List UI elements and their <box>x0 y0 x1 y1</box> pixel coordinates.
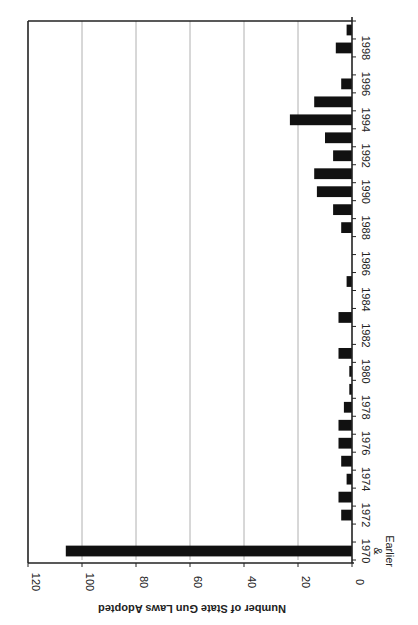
category-tick-label: 1978 <box>360 395 372 419</box>
category-tick-label: 1996 <box>360 72 372 96</box>
value-axis-title: Number of State Gun Laws Adopted <box>98 603 286 615</box>
category-tick-label: 1992 <box>360 144 372 168</box>
category-tick-label: 1972 <box>360 503 372 527</box>
bar <box>339 312 353 323</box>
bar <box>339 348 353 359</box>
bar <box>347 25 352 36</box>
bar <box>344 402 352 413</box>
bar <box>339 492 353 503</box>
bar <box>317 186 352 197</box>
value-tick-label: 20 <box>300 576 312 588</box>
category-tick-label: 1988 <box>360 215 372 239</box>
gridlines <box>82 21 298 560</box>
category-axis-ticks: 1970&Earlier1972197419761978198019821984… <box>352 21 396 567</box>
bar <box>290 114 352 125</box>
bars <box>66 25 352 557</box>
bar <box>333 150 352 161</box>
category-tick-label: & <box>372 547 384 555</box>
bar <box>341 456 352 467</box>
value-tick-label: 100 <box>84 573 96 591</box>
value-tick-label: 40 <box>246 576 258 588</box>
bar <box>314 96 352 107</box>
bar <box>66 546 352 557</box>
category-tick-label: 1986 <box>360 251 372 275</box>
bar <box>325 132 352 143</box>
bar <box>347 474 352 485</box>
bar <box>341 222 352 233</box>
bar <box>339 420 353 431</box>
category-tick-label: Earlier <box>384 535 396 567</box>
bar <box>347 276 352 287</box>
category-tick-label: 1994 <box>360 108 372 132</box>
category-tick-label: 1982 <box>360 323 372 347</box>
value-tick-label: 0 <box>354 579 366 585</box>
category-tick-label: 1976 <box>360 431 372 455</box>
value-tick-label: 80 <box>138 576 150 588</box>
bar <box>339 438 353 449</box>
value-tick-label: 60 <box>192 576 204 588</box>
category-tick-label: 1974 <box>360 467 372 491</box>
bar <box>314 168 352 179</box>
category-tick-label: 1984 <box>360 287 372 311</box>
bar-chart: 020406080100120 1970&Earlier197219741976… <box>0 0 418 625</box>
bar <box>341 510 352 521</box>
category-tick-label: 1990 <box>360 179 372 203</box>
bar <box>341 78 352 89</box>
category-tick-label: 1980 <box>360 359 372 383</box>
axes <box>28 17 354 563</box>
value-tick-label: 120 <box>30 573 42 591</box>
category-tick-label: 1970 <box>360 539 372 563</box>
bar <box>333 204 352 215</box>
chart-canvas: 020406080100120 1970&Earlier197219741976… <box>0 0 418 625</box>
value-axis-ticks: 020406080100120 <box>28 563 366 591</box>
category-tick-label: 1998 <box>360 36 372 60</box>
bar <box>336 43 352 54</box>
